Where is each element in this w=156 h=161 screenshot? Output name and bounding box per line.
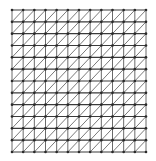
mesh-diagonal-edge [135, 34, 146, 46]
mesh-diagonal-edge [46, 69, 57, 81]
mesh-node [100, 92, 103, 95]
mesh-diagonal-edge [135, 81, 146, 93]
mesh-node [11, 92, 14, 95]
mesh-node [78, 92, 81, 95]
mesh-diagonal-edge [57, 46, 68, 58]
mesh-node [55, 103, 58, 106]
mesh-node [134, 151, 137, 154]
mesh-diagonal-edge [12, 57, 23, 69]
mesh-node [122, 151, 125, 154]
mesh-diagonal-edge [113, 34, 124, 46]
mesh-diagonal-edge [68, 22, 79, 34]
mesh-node [44, 32, 47, 35]
mesh-diagonal-edge [23, 81, 34, 93]
mesh-diagonal-edge [101, 105, 112, 117]
mesh-node [78, 21, 81, 24]
mesh-node [145, 92, 148, 95]
mesh-node [122, 127, 125, 130]
mesh-node [44, 56, 47, 59]
mesh-diagonal-edge [113, 22, 124, 34]
mesh-node [33, 139, 36, 142]
mesh-node [44, 9, 47, 12]
mesh-diagonal-edge [113, 93, 124, 105]
mesh-node [89, 56, 92, 59]
mesh-node [22, 56, 25, 59]
mesh-node [78, 32, 81, 35]
mesh-diagonal-edge [90, 81, 101, 93]
mesh-diagonal-edge [124, 117, 135, 129]
mesh-node [122, 115, 125, 118]
mesh-node [89, 32, 92, 35]
mesh-node [33, 9, 36, 12]
mesh-node [33, 32, 36, 35]
mesh-diagonal-edge [113, 46, 124, 58]
mesh-diagonal-edge [90, 57, 101, 69]
mesh-diagonal-edge [135, 117, 146, 129]
mesh-node [111, 92, 114, 95]
mesh-diagonal-edge [46, 128, 57, 140]
mesh-node [111, 56, 114, 59]
mesh-node [67, 21, 70, 24]
mesh-node [89, 151, 92, 154]
mesh-diagonal-edge [12, 10, 23, 22]
mesh-diagonal-edge [68, 81, 79, 93]
mesh-node [55, 56, 58, 59]
mesh-diagonal-edge [23, 117, 34, 129]
mesh-diagonal-edge [79, 22, 90, 34]
mesh-diagonal-edge [12, 22, 23, 34]
mesh-node [11, 21, 14, 24]
mesh-node [11, 56, 14, 59]
mesh-node [145, 9, 148, 12]
mesh-diagonal-edge [113, 69, 124, 81]
mesh-diagonal-edge [90, 140, 101, 152]
mesh-diagonal-edge [101, 140, 112, 152]
mesh-node [22, 115, 25, 118]
mesh-diagonal-edge [124, 34, 135, 46]
mesh-diagonal-edge [68, 10, 79, 22]
mesh-diagonal-edge [46, 117, 57, 129]
mesh-diagonal-edge [79, 57, 90, 69]
mesh-node [33, 68, 36, 71]
mesh-node [33, 127, 36, 130]
mesh-node [145, 151, 148, 154]
mesh-node [55, 44, 58, 47]
mesh-node [78, 115, 81, 118]
mesh-node [67, 32, 70, 35]
mesh-node [22, 127, 25, 130]
mesh-node [134, 68, 137, 71]
mesh-node [67, 68, 70, 71]
mesh-node [122, 44, 125, 47]
mesh-node [55, 68, 58, 71]
mesh-node [55, 32, 58, 35]
mesh-node [11, 80, 14, 83]
mesh-node [145, 32, 148, 35]
mesh-diagonal-edge [57, 22, 68, 34]
mesh-diagonal-edge [57, 105, 68, 117]
mesh-node [78, 139, 81, 142]
mesh-node [145, 44, 148, 47]
mesh-node [145, 56, 148, 59]
mesh-node [122, 9, 125, 12]
mesh-node [55, 127, 58, 130]
mesh-node [33, 80, 36, 83]
mesh-node [78, 44, 81, 47]
mesh-node [111, 9, 114, 12]
mesh-diagonal-edge [12, 81, 23, 93]
mesh-node [100, 56, 103, 59]
mesh-node [67, 115, 70, 118]
mesh-diagonal-edge [101, 46, 112, 58]
mesh-node [100, 115, 103, 118]
mesh-diagonal-edge [101, 128, 112, 140]
mesh-node [134, 139, 137, 142]
mesh-node [100, 151, 103, 154]
mesh-node [78, 68, 81, 71]
mesh-node [89, 103, 92, 106]
mesh-node [78, 56, 81, 59]
mesh-diagonal-edge [57, 57, 68, 69]
mesh-diagonal-edge [46, 140, 57, 152]
mesh-diagonal-edge [135, 22, 146, 34]
mesh-node [22, 68, 25, 71]
mesh-node [67, 139, 70, 142]
mesh-diagonal-edge [79, 46, 90, 58]
mesh-diagonal-edge [90, 117, 101, 129]
